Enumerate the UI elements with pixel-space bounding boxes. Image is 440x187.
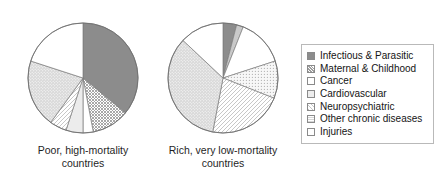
legend-swatch-maternal-icon	[307, 65, 315, 73]
legend-swatch-injuries-icon	[307, 128, 315, 136]
legend-item[interactable]: Infectious & Parasitic	[307, 50, 429, 63]
legend-item[interactable]: Cancer	[307, 75, 429, 88]
legend-label: Injuries	[320, 126, 352, 138]
legend-label: Cancer	[320, 75, 352, 87]
chart-caption-rich: Rich, very low-mortality countries	[146, 144, 300, 169]
legend-swatch-other-chronic-icon	[307, 115, 315, 123]
pie-rich-very-low-mortality	[146, 16, 300, 140]
legend-item[interactable]: Other chronic diseases	[307, 113, 429, 126]
pie-poor-high-mortality	[6, 16, 160, 140]
legend-label: Maternal & Childhood	[320, 63, 416, 75]
chart-caption-poor: Poor, high-mortality countries	[6, 144, 160, 169]
legend-label: Cardiovascular	[320, 88, 387, 100]
pie-slices-poor	[28, 23, 138, 133]
chart-rich-very-low-mortality: Rich, very low-mortality countries	[146, 16, 300, 169]
legend-swatch-infectious-icon	[307, 52, 315, 60]
pie-chart-figure: Poor, high-mortality countries Rich, ver…	[0, 0, 440, 187]
legend: Infectious & Parasitic Maternal & Childh…	[301, 44, 434, 144]
legend-swatch-cardiovascular-icon	[307, 90, 315, 98]
legend-swatch-neuropsychiatric-icon	[307, 103, 315, 111]
legend-label: Neuropsychiatric	[320, 101, 394, 113]
legend-item[interactable]: Maternal & Childhood	[307, 63, 429, 76]
legend-item[interactable]: Injuries	[307, 126, 429, 139]
legend-label: Other chronic diseases	[320, 113, 422, 125]
legend-item[interactable]: Cardiovascular	[307, 88, 429, 101]
legend-label: Infectious & Parasitic	[320, 50, 413, 62]
legend-swatch-cancer-icon	[307, 77, 315, 85]
legend-item[interactable]: Neuropsychiatric	[307, 100, 429, 113]
chart-poor-high-mortality: Poor, high-mortality countries	[6, 16, 160, 169]
pie-slices-rich	[168, 23, 278, 133]
